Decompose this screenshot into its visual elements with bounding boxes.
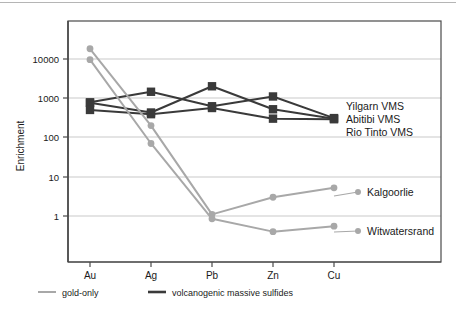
- data-point: [147, 110, 155, 118]
- data-point: [208, 104, 216, 112]
- data-point: [269, 92, 277, 100]
- data-point: [330, 115, 338, 123]
- annotation-kalgoorlie: Kalgoorlie: [367, 186, 414, 198]
- enrichment-log-line-chart: 10000 1000 100 10 1 Enrichment Au Ag Pb …: [0, 0, 456, 312]
- x-tick-label-au: Au: [84, 270, 96, 281]
- data-point: [270, 228, 277, 235]
- data-point: [331, 184, 338, 191]
- annotation-rio-tinto-vms: Rio Tinto VMS: [346, 126, 413, 138]
- data-point: [331, 223, 338, 230]
- chart-figure: 10000 1000 100 10 1 Enrichment Au Ag Pb …: [0, 0, 456, 312]
- data-point: [87, 56, 94, 63]
- annotation-yilgarn-vms: Yilgarn VMS: [346, 100, 404, 112]
- y-axis-title: Enrichment: [15, 120, 26, 171]
- data-point: [86, 106, 94, 114]
- y-tick-label-10000: 10000: [33, 54, 59, 65]
- y-tick-label-1000: 1000: [38, 93, 59, 104]
- data-point: [208, 82, 216, 90]
- data-point: [269, 114, 277, 122]
- annotation-marker-kalgoorlie: [355, 189, 361, 195]
- legend-label-vms: volcanogenic massive sulfides: [172, 288, 294, 298]
- annotation-abitibi-vms: Abitibi VMS: [346, 113, 400, 125]
- y-tick-label-1: 1: [54, 211, 59, 222]
- annotation-marker-witwatersrand: [355, 228, 361, 234]
- data-point: [209, 215, 216, 222]
- data-point: [148, 140, 155, 147]
- chart-legend: gold-only volcanogenic massive sulfides: [38, 288, 294, 298]
- data-point: [148, 122, 155, 129]
- data-point: [269, 105, 277, 113]
- data-point: [270, 194, 277, 201]
- data-point: [86, 99, 94, 107]
- top-divider-rule: [0, 2, 456, 3]
- x-tick-label-zn: Zn: [267, 270, 279, 281]
- x-tick-label-pb: Pb: [206, 270, 219, 281]
- y-tick-label-100: 100: [43, 132, 59, 143]
- x-tick-marks: [90, 262, 334, 267]
- data-point: [147, 88, 155, 96]
- annotation-witwatersrand: Witwatersrand: [367, 225, 434, 237]
- legend-label-gold-only: gold-only: [62, 288, 99, 298]
- x-tick-label-ag: Ag: [145, 270, 157, 281]
- data-point: [87, 45, 94, 52]
- x-tick-label-cu: Cu: [328, 270, 341, 281]
- y-tick-label-10: 10: [48, 172, 59, 183]
